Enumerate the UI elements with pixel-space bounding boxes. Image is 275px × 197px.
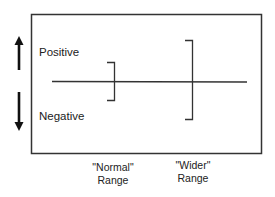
up-arrow-icon bbox=[15, 36, 24, 70]
normal-range-subtitle: Range bbox=[83, 174, 143, 187]
normal-range-title: "Normal" bbox=[83, 161, 143, 174]
baseline bbox=[52, 82, 247, 83]
wider-range-label: "Wider" Range bbox=[163, 159, 223, 185]
positive-label: Positive bbox=[39, 46, 79, 58]
negative-label: Negative bbox=[39, 110, 84, 122]
wider-range-bracket bbox=[185, 41, 193, 120]
down-arrow-icon bbox=[15, 92, 24, 131]
wider-range-subtitle: Range bbox=[163, 172, 223, 185]
frame-box bbox=[32, 15, 262, 154]
wider-range-title: "Wider" bbox=[163, 159, 223, 172]
normal-range-label: "Normal" Range bbox=[83, 161, 143, 187]
